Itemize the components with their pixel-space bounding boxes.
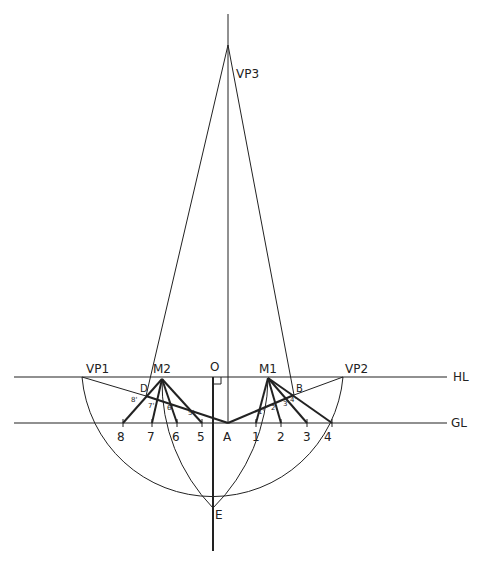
primed-label-4: 4'	[290, 396, 296, 404]
label-a: A	[223, 430, 232, 444]
measure-arc-m1	[213, 378, 268, 508]
primed-label-5: 5'	[188, 409, 194, 417]
label-d: D	[140, 383, 148, 394]
primed-label-7: 7'	[148, 402, 154, 410]
primed-label-8: 8'	[131, 396, 137, 404]
vp1-line	[82, 377, 146, 396]
primed-label-2: 2'	[271, 404, 277, 412]
tick-label-4: 4	[324, 430, 332, 444]
tick-label-6: 6	[172, 430, 180, 444]
perspective-diagram: VP3 VP1 VP2 M2 M1 O HL GL A B D E 8 7 6 …	[0, 0, 485, 574]
label-hl: HL	[453, 370, 469, 384]
vp3-left-line	[146, 45, 228, 396]
primed-label-3: 3'	[283, 400, 289, 408]
right-angle-marker	[213, 377, 221, 384]
m2-ray-5	[162, 379, 202, 423]
label-vp2: VP2	[345, 362, 368, 376]
tick-label-8: 8	[117, 430, 125, 444]
label-vp1: VP1	[86, 362, 109, 376]
label-o: O	[210, 360, 219, 374]
vp3-right-line	[228, 45, 294, 395]
primed-label-1: 1'	[258, 408, 264, 416]
primed-label-6: 6'	[167, 404, 173, 412]
label-e: E	[215, 508, 223, 522]
tick-label-2: 2	[277, 430, 285, 444]
tick-label-1: 1	[252, 430, 260, 444]
label-b: B	[296, 383, 303, 394]
label-m2: M2	[153, 362, 171, 376]
tick-label-3: 3	[303, 430, 311, 444]
tick-label-5: 5	[197, 430, 205, 444]
label-vp3: VP3	[236, 67, 259, 81]
label-gl: GL	[451, 416, 467, 430]
tick-label-7: 7	[147, 430, 155, 444]
label-m1: M1	[259, 362, 277, 376]
edge-ad	[146, 396, 228, 423]
